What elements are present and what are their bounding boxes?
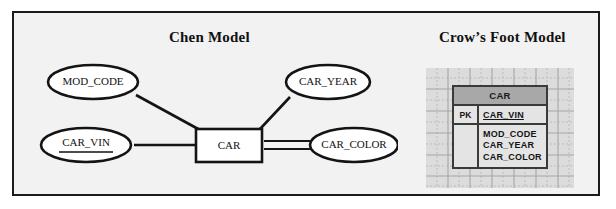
attribute-item: CAR_COLOR <box>483 152 546 164</box>
connector-car-year <box>260 97 290 129</box>
figure-frame: Chen Model Crow’s Foot Model CAR MOD_COD… <box>12 11 600 196</box>
crow-foot-model-title: Crow’s Foot Model <box>439 29 566 46</box>
chen-model-diagram: CAR MOD_CODE CAR_VIN CAR_YEAR CAR_COLOR <box>28 55 398 185</box>
attribute-car-vin-label: CAR_VIN <box>62 136 110 148</box>
table-header: CAR <box>454 87 546 106</box>
table-name-label: CAR <box>489 90 510 101</box>
attribute-list: MOD_CODE CAR_YEAR CAR_COLOR <box>479 125 546 167</box>
attribute-car-color-label: CAR_COLOR <box>321 138 387 150</box>
crow-foot-entity-table: CAR PK CAR_VIN MOD_CODE CAR_YEAR CAR_COL… <box>452 85 548 169</box>
attribute-car-year-label: CAR_YEAR <box>299 75 358 87</box>
key-marker-label: PK <box>460 110 472 120</box>
chen-model-title: Chen Model <box>169 29 250 46</box>
table-row-attributes: MOD_CODE CAR_YEAR CAR_COLOR <box>454 125 546 167</box>
key-field-label: CAR_VIN <box>483 110 524 120</box>
key-marker-cell: PK <box>454 106 479 123</box>
key-field-cell: CAR_VIN <box>479 106 546 123</box>
attribute-item: CAR_YEAR <box>483 140 546 152</box>
entity-car-label: CAR <box>218 139 241 151</box>
connector-mod-code <box>136 95 200 130</box>
er-diagram-figure: Chen Model Crow’s Foot Model CAR MOD_COD… <box>0 0 616 209</box>
attribute-marker-cell <box>454 125 479 167</box>
attribute-mod-code-label: MOD_CODE <box>62 75 123 87</box>
attribute-item: MOD_CODE <box>483 129 546 141</box>
table-row-primary-key: PK CAR_VIN <box>454 106 546 125</box>
